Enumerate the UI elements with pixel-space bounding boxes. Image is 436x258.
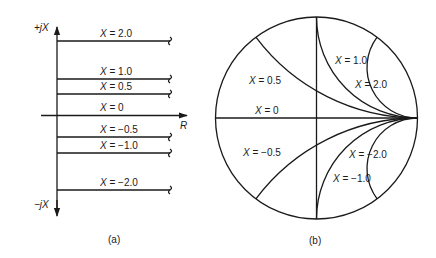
smith-reactance-label: X = −2.0 [348, 149, 387, 160]
caption-b: (b) [309, 235, 321, 246]
reactance-line-label: X = −2.0 [99, 177, 138, 188]
caption-a: (a) [108, 234, 120, 245]
real-axis-label: R [180, 120, 187, 131]
reactance-labels: X = 0.5X = 1.0X = 2.0X = 0X = −0.5X = −2… [242, 55, 387, 184]
smith-reactance-label: X = 0 [254, 105, 279, 116]
reactance-line-label: X = 2.0 [99, 28, 132, 39]
reactance-line-label: X = −1.0 [99, 140, 138, 151]
break-mark-icon [169, 186, 172, 194]
break-mark-icon [169, 37, 172, 45]
positive-imag-axis-label: +jX [34, 22, 49, 33]
reactance-line-label: X = 0 [99, 102, 124, 113]
smith-reactance-label: X = −1.0 [332, 173, 371, 184]
reactance-arc [367, 37, 418, 118]
smith-reactance-label: X = 0.5 [248, 75, 281, 86]
figure: +jX −jX R X = 2.0X = 1.0X = 0.5X = 0X = … [0, 0, 436, 258]
reactance-line-label: X = −0.5 [99, 124, 138, 135]
negative-imag-axis-label: −jX [34, 199, 49, 210]
reactance-line-label: X = 1.0 [99, 66, 132, 77]
reactance-arcs [216, 17, 418, 219]
break-mark-icon [169, 149, 172, 157]
smith-reactance-label: X = 2.0 [354, 79, 387, 90]
smith-reactance-label: X = 1.0 [334, 55, 367, 66]
break-mark-icon [169, 90, 172, 98]
smith-reactance-label: X = −0.5 [242, 147, 281, 158]
break-mark-icon [169, 133, 172, 141]
break-mark-icon [169, 75, 172, 83]
panel-b-smith-chart: X = 0.5X = 1.0X = 2.0X = 0X = −0.5X = −2… [216, 17, 418, 246]
reactance-line-label: X = 0.5 [99, 81, 132, 92]
panel-a-rectangular-plane: +jX −jX R X = 2.0X = 1.0X = 0.5X = 0X = … [34, 22, 187, 245]
reactance-lines: X = 2.0X = 1.0X = 0.5X = 0X = −0.5X = −1… [57, 28, 172, 194]
